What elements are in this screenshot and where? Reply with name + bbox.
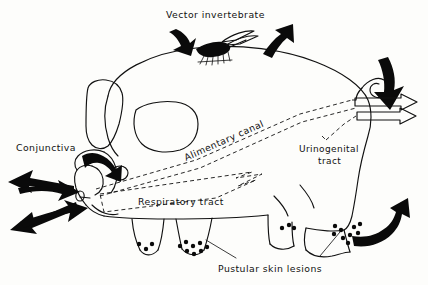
pig-hind-leg (305, 228, 351, 257)
label-urinogenital-tract-line2: tract (318, 156, 341, 166)
label-conjunctiva: Conjunctiva (16, 142, 76, 153)
label-respiratory-tract: Respiratory tract (138, 196, 224, 207)
diagram-canvas: Vector invertebrate Conjunctiva Alimenta… (0, 0, 428, 285)
urinogenital-route (322, 116, 356, 140)
leader-lines (206, 232, 340, 258)
arrow-urinogenital-out-lower (357, 108, 416, 124)
label-alimentary-canal: Alimentary canal (182, 118, 265, 163)
pig-transmission-diagram: Vector invertebrate Conjunctiva Alimenta… (0, 0, 428, 285)
pig-ear-icon (86, 80, 123, 149)
label-urinogenital-tract-line1: Urinogenital (299, 144, 359, 154)
label-pustular-skin-lesions: Pustular skin lesions (218, 263, 322, 274)
label-vector-invertebrate: Vector invertebrate (166, 9, 265, 20)
pustular-lesion-dots (137, 222, 362, 256)
mosquito-vector-icon (196, 31, 258, 65)
pig-fore-legs (132, 215, 294, 255)
arrow-vector-out-right (263, 24, 294, 58)
